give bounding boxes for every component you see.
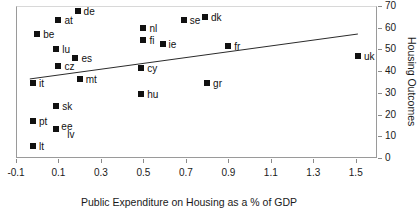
data-point-label-nl: nl: [149, 24, 157, 34]
data-point-label-at: at: [64, 16, 72, 26]
data-point-label-fi: fi: [149, 36, 154, 46]
data-point-sk: [53, 103, 59, 109]
data-point-cz: [55, 63, 61, 69]
data-point-cy: [138, 65, 144, 71]
y-tick-label: 40: [385, 66, 396, 76]
data-point-nl: [140, 25, 146, 31]
y-tick: [378, 49, 382, 50]
y-tick: [378, 28, 382, 29]
data-point-pt: [30, 118, 36, 124]
data-point-label-sk: sk: [62, 102, 72, 112]
data-point-label-cy: cy: [147, 64, 157, 74]
data-point-uk: [355, 53, 361, 59]
data-point-fr: [225, 43, 231, 49]
data-point-label-pt: pt: [39, 117, 47, 127]
data-point-ee: [53, 126, 59, 132]
data-point-label-be: be: [43, 30, 54, 40]
data-point-label-hu: hu: [147, 90, 158, 100]
x-tick: [58, 159, 59, 163]
data-point-de: [75, 8, 81, 14]
data-point-label-es: es: [81, 54, 92, 64]
data-point-label-mt: mt: [86, 75, 97, 85]
x-tick: [101, 159, 102, 163]
data-point-mt: [77, 76, 83, 82]
x-tick-label: 1.1: [264, 168, 278, 178]
data-point-label-de: de: [84, 7, 95, 17]
x-tick-label: -0.1: [7, 168, 24, 178]
data-point-ie: [160, 41, 166, 47]
x-tick: [313, 159, 314, 163]
data-point-label-lu: lu: [62, 45, 70, 55]
y-tick-label: 50: [385, 44, 396, 54]
x-tick-label: 0.5: [136, 168, 150, 178]
y-tick: [378, 71, 382, 72]
y-tick: [378, 158, 382, 159]
x-tick: [271, 159, 272, 163]
y-tick: [378, 93, 382, 94]
y-tick: [378, 136, 382, 137]
x-tick: [356, 159, 357, 163]
x-tick-label: 0.7: [179, 168, 193, 178]
data-point-hu: [138, 91, 144, 97]
data-point-label-se: se: [190, 16, 201, 26]
data-point-dk: [202, 14, 208, 20]
data-point-label-lv: lv: [67, 130, 74, 140]
y-tick: [378, 115, 382, 116]
x-tick-label: 1.3: [306, 168, 320, 178]
x-tick: [228, 159, 229, 163]
data-point-lt: [30, 143, 36, 149]
y-tick-label: 60: [385, 23, 396, 33]
x-tick: [143, 159, 144, 163]
x-tick-label: 1.5: [349, 168, 363, 178]
data-point-label-it: it: [39, 79, 44, 89]
y-tick: [378, 6, 382, 7]
data-point-fi: [140, 37, 146, 43]
data-point-gr: [204, 80, 210, 86]
x-tick-label: 0.3: [94, 168, 108, 178]
y-tick-label: 20: [385, 110, 396, 120]
data-point-it: [30, 80, 36, 86]
y-axis-title: Housing Outcomes: [405, 0, 418, 164]
data-point-se: [181, 17, 187, 23]
y-tick-label: 0: [385, 153, 391, 163]
data-point-label-dk: dk: [211, 13, 222, 23]
data-point-label-uk: uk: [364, 52, 375, 62]
data-point-es: [72, 55, 78, 61]
data-point-label-lt: lt: [39, 142, 44, 152]
data-point-at: [55, 17, 61, 23]
y-tick-label: 30: [385, 88, 396, 98]
data-point-lu: [53, 46, 59, 52]
x-tick: [186, 159, 187, 163]
x-tick-label: 0.1: [52, 168, 66, 178]
data-point-label-fr: fr: [234, 42, 240, 52]
x-tick: [16, 159, 17, 163]
data-point-label-gr: gr: [213, 79, 222, 89]
y-tick-label: 10: [385, 131, 396, 141]
data-point-label-cz: cz: [64, 62, 74, 72]
data-point-be: [34, 31, 40, 37]
scatter-chart: deatbeluesczitmtskpteelvltnlfiiesedkcyhu…: [0, 0, 418, 214]
data-point-label-ie: ie: [169, 40, 177, 50]
x-axis-title: Public Expenditure on Housing as a % of …: [0, 196, 378, 208]
x-tick-label: 0.9: [221, 168, 235, 178]
y-tick-label: 70: [385, 1, 396, 11]
